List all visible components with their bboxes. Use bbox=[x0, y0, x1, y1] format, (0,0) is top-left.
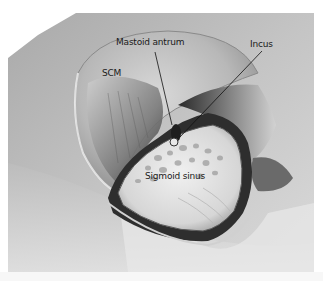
illustration-drawing bbox=[8, 13, 314, 272]
bottom-margin bbox=[0, 272, 323, 281]
label-incus: Incus bbox=[250, 39, 273, 49]
label-scm: SCM bbox=[102, 68, 121, 78]
label-mastoid-antrum: Mastoid antrum bbox=[116, 37, 184, 47]
label-sigmoid-sinus: Sigmoid sinus bbox=[145, 171, 205, 181]
anatomy-illustration: Mastoid antrum Incus SCM Sigmoid sinus bbox=[8, 13, 314, 272]
